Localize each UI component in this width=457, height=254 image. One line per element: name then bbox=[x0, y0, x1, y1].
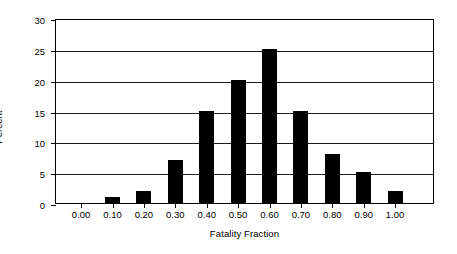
x-tick-label: 1.00 bbox=[372, 210, 418, 220]
x-tick-mark bbox=[301, 203, 302, 208]
x-tick-mark bbox=[270, 203, 271, 208]
histogram-figure: Percent 051015202530 0.000.100.200.300.4… bbox=[0, 0, 457, 254]
bars-group bbox=[56, 20, 433, 203]
x-tick-mark bbox=[364, 203, 365, 208]
y-tick-mark bbox=[51, 205, 56, 206]
bar bbox=[199, 111, 214, 204]
y-tick-label: 15 bbox=[11, 109, 45, 119]
y-axis-title-text: Percent bbox=[0, 110, 4, 143]
x-axis-title: Fatality Fraction bbox=[55, 228, 434, 239]
bar bbox=[325, 154, 340, 203]
bar bbox=[388, 191, 403, 203]
y-tick-label: 25 bbox=[11, 47, 45, 57]
y-tick-label: 0 bbox=[11, 201, 45, 211]
x-tick-mark bbox=[175, 203, 176, 208]
bar bbox=[356, 172, 371, 203]
x-tick-mark bbox=[113, 203, 114, 208]
y-tick-label: 5 bbox=[11, 170, 45, 180]
x-tick-mark bbox=[332, 203, 333, 208]
bar bbox=[136, 191, 151, 203]
x-tick-mark bbox=[207, 203, 208, 208]
bar bbox=[293, 111, 308, 204]
y-axis-title: Percent bbox=[24, 0, 44, 254]
bar bbox=[262, 49, 277, 203]
x-tick-mark bbox=[144, 203, 145, 208]
x-tick-mark bbox=[81, 203, 82, 208]
bar bbox=[168, 160, 183, 203]
x-tick-mark bbox=[238, 203, 239, 208]
x-tick-mark bbox=[395, 203, 396, 208]
bar bbox=[231, 80, 246, 203]
plot-area: 051015202530 0.000.100.200.300.400.500.6… bbox=[55, 19, 434, 204]
y-tick-label: 20 bbox=[11, 78, 45, 88]
y-tick-label: 10 bbox=[11, 139, 45, 149]
y-tick-label: 30 bbox=[11, 16, 45, 26]
